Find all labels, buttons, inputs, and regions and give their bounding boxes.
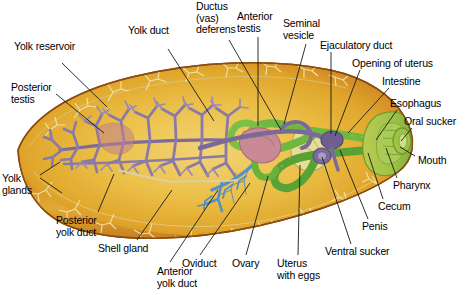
label-seminal-vesicle: Seminal vesicle [283,18,320,41]
label-yolk-reservoir: Yolk reservoir [14,41,75,53]
label-yolk-duct: Yolk duct [128,25,169,37]
label-anterior-yolk-duct: Anterior yolk duct [157,266,197,289]
label-shell-gland: Shell gland [98,243,148,255]
label-opening-of-uterus: Opening of uterus [352,58,433,70]
ventral-sucker-structure [313,148,331,164]
label-ductus-vas-deferens: Ductus (vas) deferens [196,1,236,36]
label-pharynx: Pharynx [393,180,430,192]
label-uterus-with-eggs: Uterus with eggs [277,258,320,281]
label-penis: Penis [362,221,388,233]
label-mouth: Mouth [418,155,446,167]
label-ejaculatory-duct: Ejaculatory duct [320,40,392,52]
label-oral-sucker: Oral sucker [404,116,456,128]
label-yolk-glands: Yolk glands [2,173,32,196]
label-cecum: Cecum [378,201,411,213]
figure-anatomical-diagram: Yolk reservoirYolk ductDuctus (vas) defe… [0,0,470,295]
label-anterior-testis: Anterior testis [237,11,273,34]
label-ventral-sucker: Ventral sucker [325,246,389,258]
label-posterior-testis: Posterior testis [11,82,52,105]
label-intestine: Intestine [382,76,420,88]
label-ovary: Ovary [232,258,259,270]
label-posterior-yolk-duct: Posterior yolk duct [56,215,97,238]
label-esophagus: Esophagus [390,98,441,110]
